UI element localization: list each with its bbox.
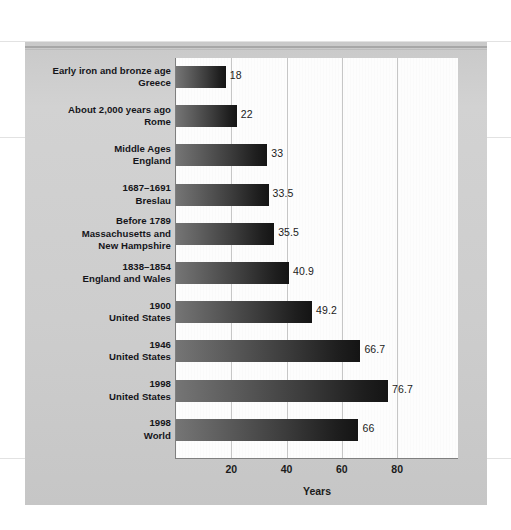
bar: [176, 380, 388, 402]
bar-row: 76.7: [176, 372, 458, 411]
x-tick-label-60: 60: [336, 463, 348, 475]
bar-row: 33: [176, 136, 458, 175]
category-label-line: England and Wales: [26, 273, 171, 286]
x-tick-label-20: 20: [225, 463, 237, 475]
bar-row: 40.9: [176, 254, 458, 293]
category-label-line: United States: [26, 391, 171, 404]
bar-chart-figure: 18223333.535.540.949.266.776.766 Early i…: [25, 42, 487, 505]
bar: [176, 223, 274, 245]
bar-row: 66: [176, 411, 458, 450]
category-label: About 2,000 years agoRome: [26, 104, 176, 129]
category-label-line: New Hampshire: [26, 240, 171, 253]
bar-value-label: 49.2: [316, 304, 337, 316]
bar-row: 35.5: [176, 215, 458, 254]
bar-value-label: 66.7: [364, 343, 385, 355]
category-label-line: Massachusetts and: [26, 228, 171, 241]
category-label-line: 1998: [26, 378, 171, 391]
bar: [176, 184, 269, 206]
bar-value-label: 76.7: [392, 383, 413, 395]
bar: [176, 262, 289, 284]
bar-row: 49.2: [176, 293, 458, 332]
category-label-line: Greece: [26, 77, 171, 90]
category-label: Before 1789Massachusetts andNew Hampshir…: [26, 215, 176, 253]
category-label-line: 1687–1691: [26, 182, 171, 195]
bar: [176, 340, 360, 362]
category-label-line: Early iron and bronze age: [26, 65, 171, 78]
category-label-line: Before 1789: [26, 215, 171, 228]
panel-top-border: [25, 46, 487, 48]
category-label-line: Breslau: [26, 195, 171, 208]
bar-row: 33.5: [176, 176, 458, 215]
bar-value-label: 18: [230, 69, 242, 81]
bar-value-label: 22: [241, 108, 253, 120]
category-label-line: World: [26, 430, 171, 443]
category-label-line: United States: [26, 351, 171, 364]
bar: [176, 105, 237, 127]
category-label-line: 1998: [26, 417, 171, 430]
category-label-line: About 2,000 years ago: [26, 104, 171, 117]
category-label-line: England: [26, 155, 171, 168]
bar-value-label: 66: [362, 422, 374, 434]
category-label-line: 1946: [26, 339, 171, 352]
x-tick-label-40: 40: [281, 463, 293, 475]
category-label: 1946United States: [26, 339, 176, 364]
category-label: 1838–1854England and Wales: [26, 261, 176, 286]
x-tick-label-80: 80: [391, 463, 403, 475]
bar-row: 22: [176, 97, 458, 136]
bar: [176, 144, 267, 166]
bar: [176, 66, 226, 88]
bar: [176, 419, 358, 441]
category-label-line: Rome: [26, 116, 171, 129]
category-label: Early iron and bronze ageGreece: [26, 65, 176, 90]
bar-row: 18: [176, 58, 458, 97]
category-label-line: 1838–1854: [26, 261, 171, 274]
x-axis-line: [175, 458, 458, 459]
category-label-line: Middle Ages: [26, 143, 171, 156]
bar-value-label: 40.9: [293, 265, 314, 277]
category-label: 1998World: [26, 417, 176, 442]
category-label: 1998United States: [26, 378, 176, 403]
panel-top-border-shadow: [25, 49, 487, 50]
category-label-line: United States: [26, 312, 171, 325]
category-label: 1900United States: [26, 300, 176, 325]
x-axis-title: Years: [176, 485, 458, 497]
category-label: 1687–1691Breslau: [26, 182, 176, 207]
category-label: Middle AgesEngland: [26, 143, 176, 168]
bar-row: 66.7: [176, 332, 458, 371]
bar-value-label: 33: [271, 147, 283, 159]
category-label-line: 1900: [26, 300, 171, 313]
bar: [176, 301, 312, 323]
bar-value-label: 35.5: [278, 226, 299, 238]
bar-value-label: 33.5: [273, 187, 294, 199]
